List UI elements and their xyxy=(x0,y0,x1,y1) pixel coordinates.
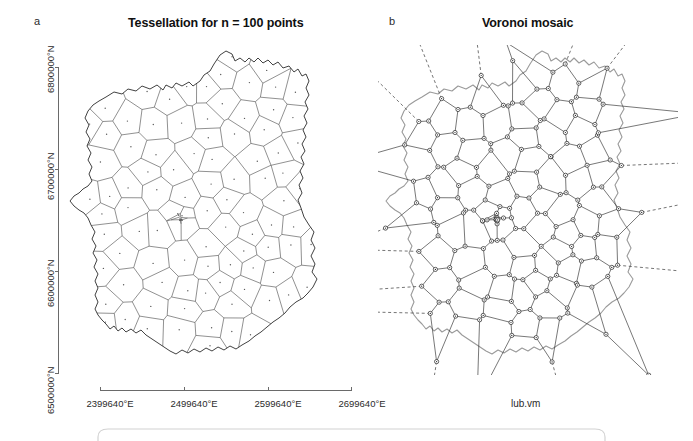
bottom-frame-border xyxy=(0,0,693,441)
figure-panel-container: a Tessellation for n = 100 points b Voro… xyxy=(0,0,693,441)
